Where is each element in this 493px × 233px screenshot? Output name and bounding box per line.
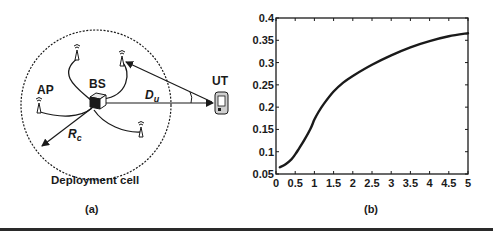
base-station-icon (90, 93, 106, 109)
bottom-rule (0, 228, 493, 231)
x-axis-ticks: 00.511.522.533.544.55 (273, 18, 471, 189)
y-tick-label: 0.25 (253, 79, 274, 91)
x-tick-label: 1.5 (326, 177, 341, 189)
ap-antenna-icon (36, 98, 42, 114)
label-deployment-cell: Deployment cell (51, 174, 139, 186)
x-tick-label: 3 (388, 177, 394, 189)
x-tick-label: 3.5 (403, 177, 418, 189)
ap-antenna-icon (138, 122, 144, 138)
x-tick-label: 2 (350, 177, 356, 189)
user-terminal-icon (215, 92, 228, 114)
x-tick-label: 4.5 (441, 177, 456, 189)
ut-to-ap-arrow (126, 62, 212, 102)
y-tick-label: 0.1 (259, 146, 274, 158)
caption-a: (a) (85, 203, 99, 215)
y-tick-label: 0.2 (259, 101, 274, 113)
y-tick-label: 0.05 (253, 168, 274, 180)
x-tick-label: 1 (311, 177, 317, 189)
label-bs: BS (89, 77, 106, 91)
label-du: Du (145, 88, 160, 104)
angle-arc (190, 92, 192, 103)
x-tick-label: 0 (273, 177, 279, 189)
panel-b-chart: 0.050.10.150.20.250.30.350.4 00.511.522.… (253, 12, 471, 215)
ap-antenna-icon (74, 45, 80, 61)
x-tick-label: 4 (427, 177, 434, 189)
y-tick-label: 0.15 (253, 123, 274, 135)
y-tick-label: 0.35 (253, 34, 274, 46)
panel-a-diagram: BS AP UT Du Rc Deployment cell (a) (21, 30, 229, 215)
plot-frame (276, 18, 468, 174)
ap-links (40, 58, 141, 132)
x-tick-label: 2.5 (364, 177, 379, 189)
label-ap: AP (37, 83, 54, 97)
rc-arrow (42, 108, 92, 146)
label-rc: Rc (68, 127, 82, 143)
y-axis-ticks: 0.050.10.150.20.250.30.350.4 (253, 12, 468, 180)
caption-b: (b) (364, 203, 378, 215)
y-tick-label: 0.4 (259, 12, 275, 24)
x-tick-label: 0.5 (288, 177, 303, 189)
figure: BS AP UT Du Rc Deployment cell (a) 0.050… (0, 0, 493, 233)
data-curve (280, 33, 468, 167)
label-ut: UT (212, 74, 229, 88)
x-tick-label: 5 (465, 177, 471, 189)
y-tick-label: 0.3 (259, 57, 274, 69)
